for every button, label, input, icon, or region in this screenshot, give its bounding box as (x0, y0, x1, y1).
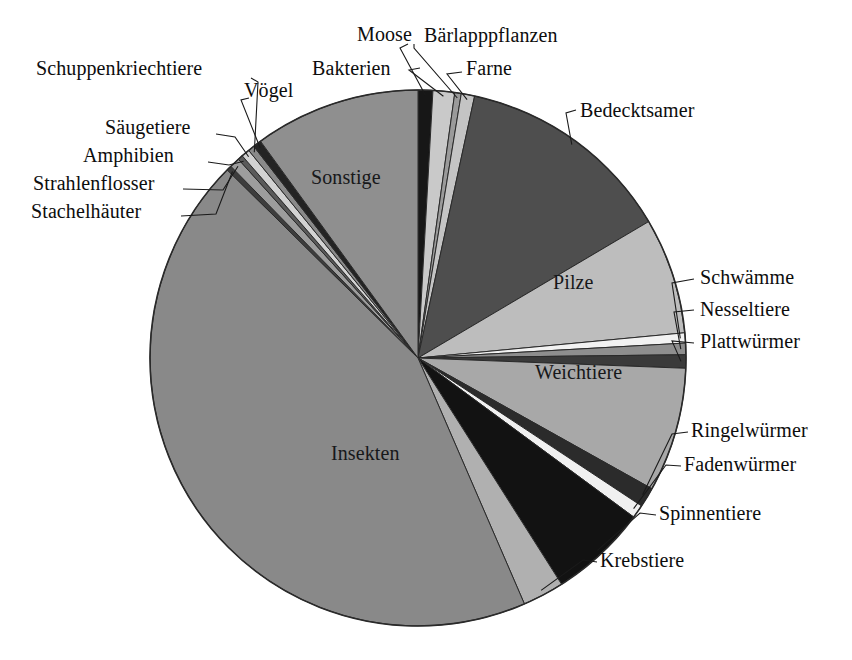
slice-label-bakterien: Bakterien (312, 58, 391, 79)
slice-label-pilze: Pilze (553, 272, 594, 293)
slice-label-bedecktsamer: Bedecktsamer (580, 100, 694, 121)
slice-label-insekten: Insekten (331, 443, 400, 464)
slice-label-schwaemme: Schwämme (700, 267, 794, 288)
slice-label-amphibien: Amphibien (83, 145, 174, 166)
slice-label-ringelwuermer: Ringelwürmer (691, 420, 808, 441)
slice-label-krebstiere: Krebstiere (600, 550, 684, 571)
pie-chart-figure: Schuppenkriechtiere Vögel Säugetiere Amp… (0, 0, 852, 660)
slice-label-farne: Farne (466, 58, 512, 79)
slice-label-sonstige: Sonstige (311, 167, 381, 188)
pie-slice-group (150, 90, 686, 626)
slice-label-weichtiere: Weichtiere (535, 362, 622, 383)
slice-label-moose: Moose (357, 24, 412, 45)
slice-label-nesseltiere: Nesseltiere (700, 299, 790, 320)
slice-label-fadenwuermer: Fadenwürmer (684, 454, 796, 475)
slice-label-plattwuermer: Plattwürmer (700, 331, 800, 352)
slice-label-spinnentiere: Spinnentiere (659, 503, 761, 524)
slice-label-voegel: Vögel (244, 80, 293, 101)
slice-label-stachelhaeuter: Stachelhäuter (31, 201, 141, 222)
slice-label-baerlapppflanzen: Bärlapppflanzen (424, 25, 558, 46)
slice-label-strahlenflosser: Strahlenflosser (33, 173, 154, 194)
slice-label-saeugetiere: Säugetiere (105, 117, 190, 138)
slice-label-schuppenkriechtiere: Schuppenkriechtiere (36, 58, 202, 79)
